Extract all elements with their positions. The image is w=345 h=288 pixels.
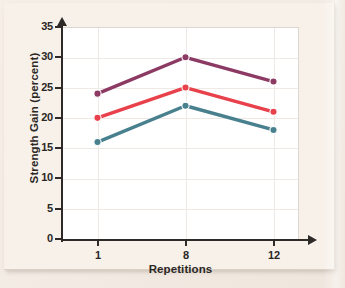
data-point xyxy=(270,126,277,133)
line-series-teal xyxy=(98,106,274,142)
data-point xyxy=(182,54,189,61)
data-point xyxy=(182,102,189,109)
figure-canvas: 35 30 25 20 15 10 5 0 1 8 12 Repetitions… xyxy=(0,0,345,288)
data-point xyxy=(94,114,101,121)
data-point xyxy=(270,108,277,115)
series-layer xyxy=(0,0,345,288)
data-point xyxy=(94,138,101,145)
data-point xyxy=(182,84,189,91)
data-point xyxy=(270,78,277,85)
data-point xyxy=(94,90,101,97)
